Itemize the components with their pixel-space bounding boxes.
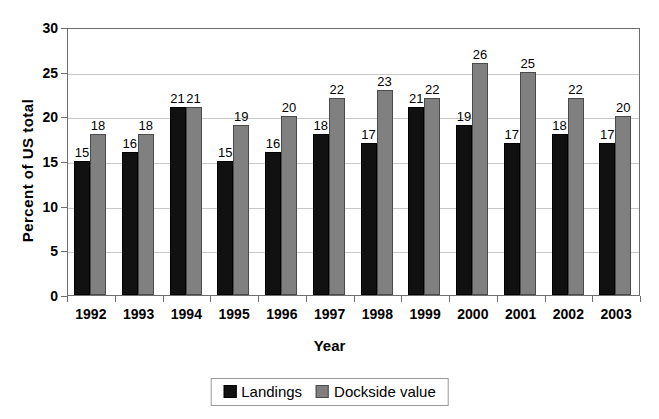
bar-landings-1996 bbox=[265, 152, 281, 295]
x-axis-tick-label-2003: 2003 bbox=[586, 306, 646, 322]
y-axis-tick-label: 5 bbox=[16, 244, 58, 258]
chart-legend: LandingsDockside value bbox=[210, 378, 449, 406]
y-axis-tick-label: 10 bbox=[16, 200, 58, 214]
x-axis-tick-mark bbox=[115, 296, 116, 302]
y-axis-tick-label: 0 bbox=[16, 289, 58, 303]
bar-landings-1998 bbox=[361, 143, 377, 295]
bar-dockside-1999 bbox=[424, 98, 440, 295]
bar-value-label: 18 bbox=[133, 119, 159, 132]
bar-landings-2003 bbox=[599, 143, 615, 295]
bar-landings-1995 bbox=[217, 161, 233, 295]
bar-value-label: 20 bbox=[610, 101, 636, 114]
bar-landings-2002 bbox=[552, 134, 568, 295]
bar-dockside-1998 bbox=[377, 90, 393, 295]
legend-swatch-dockside-icon bbox=[316, 385, 329, 398]
x-axis-tick-mark bbox=[449, 296, 450, 302]
x-axis-tick-mark bbox=[401, 296, 402, 302]
bar-dockside-2000 bbox=[472, 63, 488, 295]
legend-entry-dockside: Dockside value bbox=[316, 383, 436, 400]
bar-group: 1723 bbox=[355, 29, 403, 295]
bar-dockside-2002 bbox=[568, 98, 584, 295]
x-axis-tick-mark bbox=[497, 296, 498, 302]
bar-value-label: 22 bbox=[419, 83, 445, 96]
x-axis-tick-mark bbox=[306, 296, 307, 302]
bar-landings-2000 bbox=[456, 125, 472, 295]
bar-group: 1822 bbox=[546, 29, 594, 295]
bar-landings-1994 bbox=[170, 107, 186, 295]
bar-group: 1620 bbox=[259, 29, 307, 295]
bar-group: 1519 bbox=[211, 29, 259, 295]
bar-landings-2001 bbox=[504, 143, 520, 295]
bar-value-label: 22 bbox=[324, 83, 350, 96]
legend-label: Landings bbox=[241, 383, 302, 400]
bar-value-label: 26 bbox=[467, 48, 493, 61]
x-axis-tick-mark bbox=[258, 296, 259, 302]
y-axis-tick-label: 25 bbox=[16, 66, 58, 80]
bar-group: 2121 bbox=[164, 29, 212, 295]
bar-group: 1926 bbox=[450, 29, 498, 295]
y-axis-tick-label: 20 bbox=[16, 110, 58, 124]
bar-group: 2122 bbox=[402, 29, 450, 295]
bar-chart: Percent of US total 051015202530 1518161… bbox=[0, 0, 659, 419]
x-axis-tick-mark bbox=[354, 296, 355, 302]
bar-value-label: 19 bbox=[228, 110, 254, 123]
bar-dockside-1992 bbox=[90, 134, 106, 295]
bar-value-label: 20 bbox=[276, 101, 302, 114]
bar-group: 1518 bbox=[68, 29, 116, 295]
bar-group: 1618 bbox=[116, 29, 164, 295]
bar-group: 1822 bbox=[307, 29, 355, 295]
x-axis-tick-mark bbox=[592, 296, 593, 302]
legend-swatch-landings-icon bbox=[223, 385, 236, 398]
bar-value-label: 23 bbox=[372, 75, 398, 88]
bar-dockside-1997 bbox=[329, 98, 345, 295]
bar-landings-1999 bbox=[408, 107, 424, 295]
bar-dockside-2003 bbox=[615, 116, 631, 295]
plot-area: 1518161821211519162018221723212219261725… bbox=[67, 28, 640, 296]
y-axis-tick-label: 15 bbox=[16, 155, 58, 169]
x-axis-tick-mark bbox=[545, 296, 546, 302]
x-axis-title: Year bbox=[0, 337, 659, 354]
y-axis-tick-label: 30 bbox=[16, 21, 58, 35]
bar-value-label: 21 bbox=[181, 92, 207, 105]
legend-label: Dockside value bbox=[334, 383, 436, 400]
x-axis-tick-mark bbox=[163, 296, 164, 302]
bar-dockside-1994 bbox=[186, 107, 202, 295]
bar-value-label: 22 bbox=[563, 83, 589, 96]
bar-group: 1720 bbox=[593, 29, 641, 295]
bar-landings-1993 bbox=[122, 152, 138, 295]
bar-value-label: 25 bbox=[515, 57, 541, 70]
bar-dockside-1995 bbox=[233, 125, 249, 295]
bar-dockside-2001 bbox=[520, 72, 536, 295]
bar-dockside-1993 bbox=[138, 134, 154, 295]
bar-value-label: 18 bbox=[85, 119, 111, 132]
x-axis-tick-mark bbox=[67, 296, 68, 302]
legend-entry-landings: Landings bbox=[223, 383, 302, 400]
x-axis-tick-mark bbox=[210, 296, 211, 302]
bar-dockside-1996 bbox=[281, 116, 297, 295]
bar-landings-1992 bbox=[74, 161, 90, 295]
x-axis-tick-mark bbox=[640, 296, 641, 302]
bar-landings-1997 bbox=[313, 134, 329, 295]
bar-group: 1725 bbox=[498, 29, 546, 295]
